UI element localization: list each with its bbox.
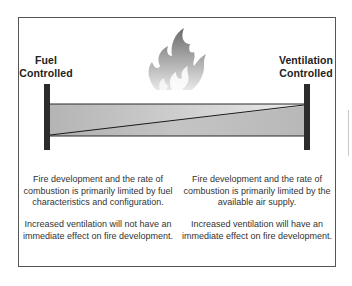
fuel-controlled-effect: Increased ventilation will not have an i… (22, 219, 174, 242)
ventilation-controlled-description: Fire development and the rate of combust… (182, 174, 332, 209)
flame-icon (142, 22, 222, 92)
fuel-controlled-description: Fire development and the rate of combust… (22, 174, 174, 209)
ventilation-controlled-label: Ventilation Controlled (264, 54, 348, 80)
label-line-1: Ventilation (264, 54, 348, 67)
fuel-controlled-label: Fuel Controlled (13, 54, 79, 80)
label-line-1: Fuel (13, 54, 79, 67)
ventilation-controlled-pillar (304, 84, 310, 150)
label-line-2: Controlled (264, 67, 348, 80)
ventilation-controlled-effect: Increased ventilation will have an immed… (182, 219, 332, 242)
label-line-2: Controlled (13, 67, 79, 80)
spectrum-bar (50, 102, 304, 138)
edge-divider (348, 110, 349, 156)
